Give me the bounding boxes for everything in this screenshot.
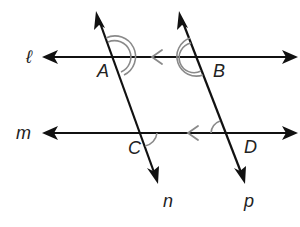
arrowhead-up-icon — [94, 11, 105, 30]
point-b: B — [213, 61, 225, 81]
parallel-lines-diagram: ℓ m n p A B C D — [0, 0, 300, 227]
line-n — [94, 11, 159, 184]
line-m — [42, 126, 298, 140]
line-p — [177, 11, 246, 184]
angle-mark-a — [106, 36, 136, 75]
point-d: D — [244, 137, 257, 157]
label-line-m: m — [16, 123, 31, 143]
label-line-p: p — [243, 191, 254, 211]
point-c: C — [128, 138, 142, 158]
label-line-l: ℓ — [25, 47, 33, 67]
point-a: A — [96, 61, 109, 81]
angle-mark-d — [211, 121, 220, 133]
angle-mark-c — [145, 133, 157, 146]
arrowhead-up-icon — [177, 11, 188, 30]
label-line-n: n — [163, 191, 173, 211]
line-l — [42, 50, 298, 64]
